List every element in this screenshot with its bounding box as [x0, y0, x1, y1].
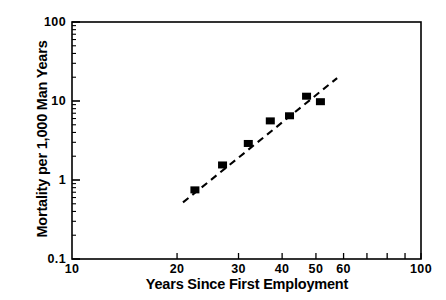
- data-point-marker: [266, 117, 275, 124]
- data-point-marker: [285, 112, 294, 119]
- plot-area: [0, 0, 446, 300]
- trend-line: [183, 78, 337, 202]
- data-point-marker: [244, 140, 253, 147]
- data-point-marker: [302, 93, 311, 100]
- data-point-marker: [316, 98, 325, 105]
- data-point-marker: [190, 186, 199, 193]
- data-point-marker: [218, 161, 227, 168]
- chart-container: Mortality per 1,000 Man Years Years Sinc…: [0, 0, 446, 300]
